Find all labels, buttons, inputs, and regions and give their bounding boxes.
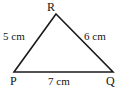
vertex-label-q: Q [106,75,115,87]
side-length-label-left: 5 cm [3,31,25,42]
side-length-label-bottom: 7 cm [48,76,70,87]
vertex-label-p: P [10,75,17,87]
vertex-label-r: R [47,1,55,13]
side-length-label-right: 6 cm [84,31,106,42]
triangle-outline [14,14,113,72]
triangle-diagram: R P Q 5 cm 6 cm 7 cm [0,0,124,91]
